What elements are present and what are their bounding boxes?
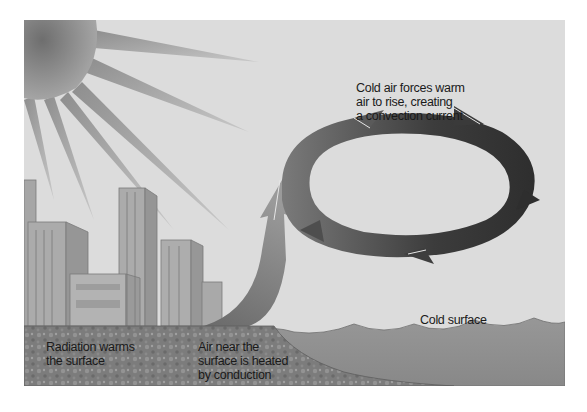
convection-label: Cold air forces warm air to rise, creati… (356, 81, 465, 123)
convection-illustration (24, 20, 565, 386)
conduction-label: Air near the surface is heated by conduc… (198, 340, 288, 382)
cold-surface-label: Cold surface (420, 313, 487, 327)
radiation-label: Radiation warms the surface (46, 340, 135, 368)
diagram-frame (24, 20, 565, 386)
